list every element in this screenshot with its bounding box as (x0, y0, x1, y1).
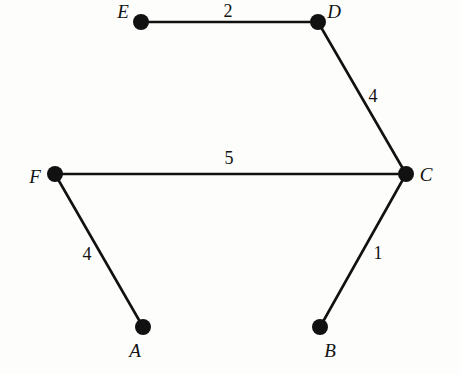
graph-edge-d-c (318, 22, 406, 174)
edge-weight-f-a: 4 (83, 245, 92, 263)
graph-edge-c-b (320, 174, 406, 327)
edge-weight-e-d: 2 (224, 2, 233, 20)
node-label-b: B (324, 341, 336, 360)
graph-node-a (135, 319, 151, 335)
edge-weight-d-c: 4 (369, 87, 378, 105)
graph-node-c (398, 166, 414, 182)
node-label-e: E (117, 2, 129, 21)
graph-node-e (133, 14, 149, 30)
node-label-c: C (420, 165, 433, 184)
node-label-f: F (29, 167, 41, 186)
edge-layer (55, 22, 406, 327)
node-label-a: A (129, 341, 141, 360)
node-label-d: D (327, 2, 341, 21)
graph-node-b (312, 319, 328, 335)
graph-canvas (0, 0, 460, 374)
graph-edge-f-a (55, 174, 143, 327)
graph-node-f (47, 166, 63, 182)
edge-weight-c-b: 1 (374, 244, 383, 262)
edge-weight-f-c: 5 (225, 149, 234, 167)
graph-node-d (310, 14, 326, 30)
graph-figure: 24514ABCDEF (0, 0, 460, 374)
